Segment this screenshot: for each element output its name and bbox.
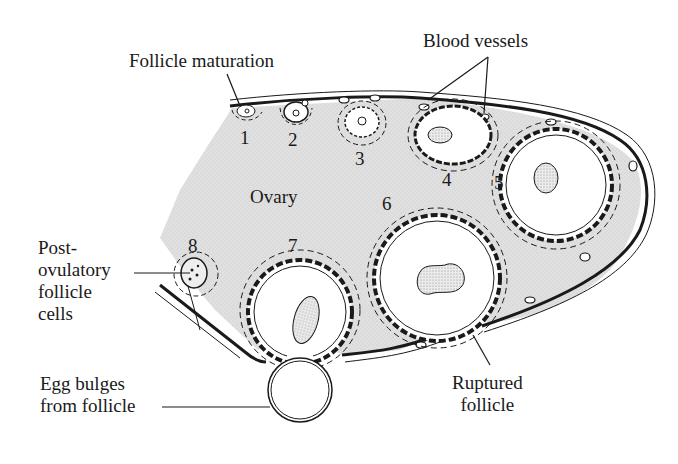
stage-number-7: 7 [288,236,298,256]
label-egg-bulges: Egg bulges from follicle [40,373,136,417]
label-blood-vessels: Blood vessels [423,30,528,52]
stage-number-4: 4 [442,170,452,190]
stage-number-1: 1 [240,128,250,148]
label-post-ovulatory-follicle-cells: Post- ovulatory follicle cells [38,237,111,325]
label-ovary: Ovary [250,186,297,208]
stage-number-2: 2 [288,130,298,150]
label-ruptured-follicle: Ruptured follicle [452,372,523,416]
stage-number-6: 6 [382,194,392,214]
label-follicle-maturation: Follicle maturation [129,50,274,72]
stage-number-5: 5 [494,173,504,193]
stage-number-8: 8 [188,236,198,256]
egg-bulge [268,352,332,422]
stage-number-3: 3 [355,149,365,169]
